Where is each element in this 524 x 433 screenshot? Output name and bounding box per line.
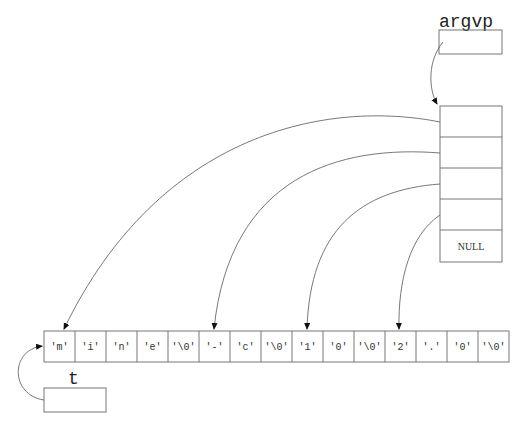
buffer-cell: 'e' — [143, 342, 161, 353]
argvp-label: argvp — [439, 12, 493, 32]
buffer-cell: '-' — [205, 342, 223, 353]
buffer-cell: '\0' — [171, 342, 195, 353]
string-buffer: 'm''i''n''e''\0''-''c''\0''1''0''\0''2''… — [44, 331, 509, 362]
buffer-cell: '0' — [329, 342, 347, 353]
arrow-argv1-to-dash — [214, 152, 440, 329]
arrow-argv0-to-m — [64, 116, 440, 329]
buffer-cell: 'c' — [236, 342, 254, 353]
buffer-cell: 'n' — [112, 342, 130, 353]
arrow-t-to-m — [18, 346, 44, 400]
t-label: t — [68, 369, 79, 389]
buffer-cell: '1' — [298, 342, 316, 353]
buffer-cell: '.' — [422, 342, 440, 353]
buffer-cell: 'm' — [50, 342, 68, 353]
t-box — [44, 388, 106, 412]
buffer-cell: '\0' — [481, 342, 505, 353]
buffer-cell: 'i' — [81, 342, 99, 353]
argvp-box — [439, 30, 502, 54]
buffer-cell: '\0' — [264, 342, 288, 353]
arrow-argv3-to-2 — [399, 215, 440, 329]
buffer-cell: '0' — [453, 342, 471, 353]
arrow-argv2-to-1 — [307, 184, 440, 329]
argv-array: NULL — [440, 106, 502, 262]
buffer-cell: '2' — [391, 342, 409, 353]
pointer-diagram: argvp NULL 'm''i''n''e''\0''-''c''\0''1'… — [0, 0, 524, 433]
argv-null: NULL — [458, 241, 485, 252]
buffer-cell: '\0' — [357, 342, 381, 353]
arrow-argvp-to-argv — [431, 42, 443, 104]
